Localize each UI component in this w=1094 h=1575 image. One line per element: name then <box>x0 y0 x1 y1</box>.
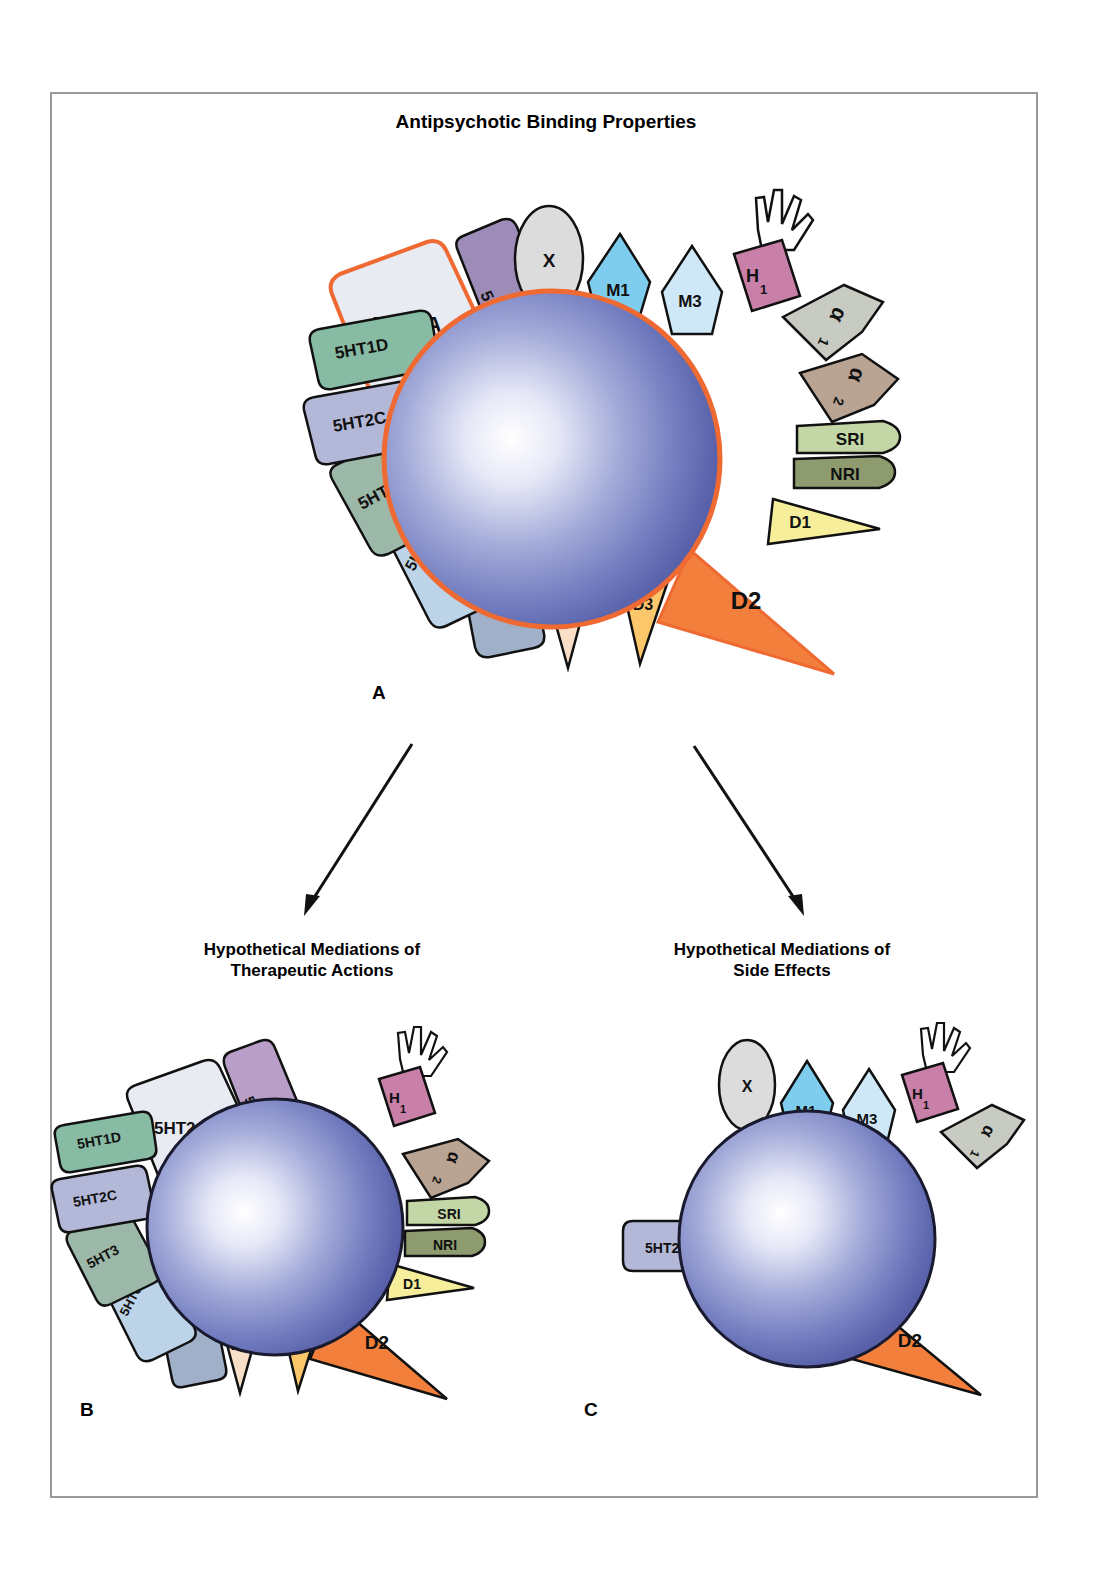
receptor-b-h1-label: H <box>389 1089 400 1106</box>
receptor-m3-label: M3 <box>678 292 702 311</box>
receptor-c-d2-label: D2 <box>898 1330 922 1351</box>
receptor-alpha2[interactable]: α 2 <box>800 354 898 422</box>
arrow-to-panel-c <box>694 746 804 916</box>
receptor-b-d1-label: D1 <box>403 1276 421 1292</box>
h1-flame-icon <box>756 190 813 250</box>
receptor-d2-label: D2 <box>731 587 762 614</box>
panel-b-svg: 5HT2A 5HT1A H 1 α 2 <box>70 999 590 1419</box>
receptor-b-nri-label: NRI <box>433 1237 457 1253</box>
receptor-sri[interactable]: SRI <box>797 421 900 453</box>
receptor-c-h1-label: H <box>912 1085 923 1102</box>
receptor-b-alpha2[interactable]: α 2 <box>403 1139 489 1198</box>
receptor-c-x-label: X <box>742 1078 753 1095</box>
receptor-d2[interactable]: D2 <box>658 550 834 674</box>
receptor-b-h1-sub: 1 <box>400 1103 406 1115</box>
panel-c-letter: C <box>584 1399 598 1421</box>
panel-b-title: Hypothetical Mediations of Therapeutic A… <box>112 939 512 982</box>
receptor-c-alpha1[interactable]: α 1 <box>941 1105 1024 1168</box>
receptor-b-d1[interactable]: D1 <box>387 1264 474 1300</box>
h1-flame-icon-b <box>398 1027 447 1076</box>
receptor-h1-label: H <box>746 266 759 286</box>
figure-frame: Antipsychotic Binding Properties 5HT2A <box>50 92 1038 1498</box>
drug-sphere-c <box>679 1111 935 1367</box>
receptor-c-h1[interactable]: H 1 <box>902 1023 970 1122</box>
receptor-b-nri[interactable]: NRI <box>405 1228 485 1256</box>
panel-b-receptor-diagram: 5HT2A 5HT1A H 1 α 2 <box>70 999 590 1419</box>
panel-c-svg: X M1 M3 H 1 α 1 <box>597 999 1027 1419</box>
drug-sphere-b <box>147 1099 403 1355</box>
panel-a-letter: A <box>372 682 386 704</box>
panel-arrows <box>252 734 852 934</box>
receptor-b-sri[interactable]: SRI <box>407 1197 489 1225</box>
receptor-b-sri-label: SRI <box>437 1206 460 1222</box>
receptor-sri-label: SRI <box>836 430 864 449</box>
panel-c-title: Hypothetical Mediations of Side Effects <box>582 939 982 982</box>
receptor-x-label: X <box>543 250 556 271</box>
receptor-h1-sub: 1 <box>760 282 767 297</box>
panel-a-title: Antipsychotic Binding Properties <box>52 110 1040 134</box>
h1-flame-icon-c <box>921 1023 970 1072</box>
arrow-to-panel-b <box>304 744 412 916</box>
receptor-h1[interactable]: H 1 <box>734 190 813 311</box>
panel-a-receptor-diagram: 5HT2A 5HT1A X M1 M3 <box>222 154 872 714</box>
receptor-m1-label: M1 <box>606 281 630 300</box>
receptor-d1-label: D1 <box>789 513 811 532</box>
receptor-b-5ht1d[interactable]: 5HT1D <box>55 1112 157 1173</box>
receptor-d1[interactable]: D1 <box>768 499 880 544</box>
receptor-nri[interactable]: NRI <box>794 456 895 488</box>
drug-sphere-a <box>384 291 720 627</box>
receptor-b-d2-label: D2 <box>365 1332 389 1353</box>
receptor-c-h1-sub: 1 <box>923 1099 929 1111</box>
panel-c-receptor-diagram: X M1 M3 H 1 α 1 <box>597 999 1027 1419</box>
receptor-nri-label: NRI <box>830 465 859 484</box>
panel-b-letter: B <box>80 1399 94 1421</box>
receptor-m3[interactable]: M3 <box>662 246 722 334</box>
panel-a-svg: 5HT2A 5HT1A X M1 M3 <box>222 154 872 714</box>
receptor-b-5ht2c[interactable]: 5HT2C <box>52 1166 155 1233</box>
receptor-b-h1[interactable]: H 1 <box>379 1027 447 1126</box>
